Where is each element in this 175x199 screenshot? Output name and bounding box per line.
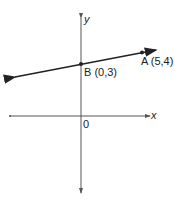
y-axis-label: y (84, 14, 90, 25)
x-axis-label: x (151, 110, 157, 121)
graph-canvas (0, 0, 175, 199)
point-A-label: A (5,4) (141, 56, 173, 67)
coordinate-plane: y x 0 B (0,3) A (5,4) (0, 0, 175, 199)
point-B (79, 62, 83, 66)
point-A (140, 51, 144, 55)
origin-label: 0 (83, 119, 89, 130)
point-B-label: B (0,3) (84, 67, 117, 78)
